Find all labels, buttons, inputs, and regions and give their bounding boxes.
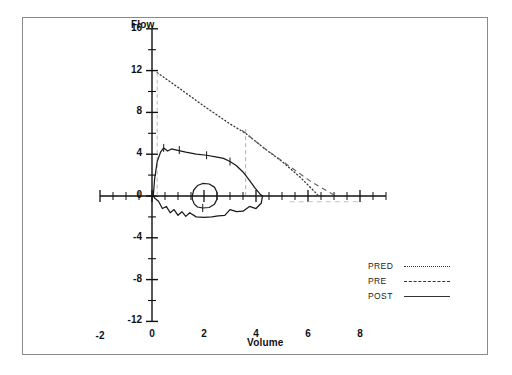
series-pre-dashed xyxy=(242,130,334,195)
y-tick-label: 8 xyxy=(116,105,142,116)
legend-item-post: POST xyxy=(368,288,450,303)
flow-volume-loop-page: Flow Volume -12-8-40481216 -202468 PRED … xyxy=(0,0,512,375)
x-tick-label: -2 xyxy=(91,330,109,341)
x-tick-label: 2 xyxy=(195,328,213,339)
legend-swatch-pred-dotted xyxy=(402,261,450,271)
x-tick-label: 8 xyxy=(351,328,369,339)
chart-legend: PRED PRE POST xyxy=(368,258,450,303)
y-tick-label: 4 xyxy=(116,147,142,158)
legend-item-pre: PRE xyxy=(368,273,450,288)
x-tick-label: 0 xyxy=(143,328,161,339)
series-post-expiratory xyxy=(153,148,262,196)
y-tick-label: -8 xyxy=(116,273,142,284)
y-tick-label: 16 xyxy=(116,22,142,33)
legend-swatch-pre-dashed xyxy=(402,276,450,286)
y-tick-label: -4 xyxy=(116,231,142,242)
x-tick-label: 4 xyxy=(247,328,265,339)
legend-item-pred: PRED xyxy=(368,258,450,273)
legend-label-post: POST xyxy=(368,291,402,301)
series-post-inspiratory xyxy=(153,196,262,217)
chart-canvas xyxy=(0,0,512,375)
y-tick-label: -12 xyxy=(116,314,142,325)
legend-label-pred: PRED xyxy=(368,261,402,271)
x-tick-label: 6 xyxy=(299,328,317,339)
y-tick-label: 12 xyxy=(116,64,142,75)
axis-layer xyxy=(100,29,386,322)
y-tick-label: 0 xyxy=(116,189,142,200)
legend-swatch-post-solid xyxy=(402,291,450,301)
legend-label-pre: PRE xyxy=(368,276,402,286)
series-pred-dotted xyxy=(157,73,318,196)
